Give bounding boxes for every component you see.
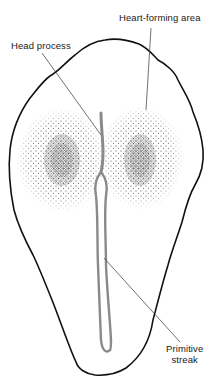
label-primitive-streak: Primitive streak: [166, 343, 203, 365]
right-heart-forming-area: [98, 106, 184, 210]
leader-primitive-streak: [104, 258, 180, 342]
head-process: [101, 113, 103, 172]
embryo-diagram: [0, 0, 214, 387]
label-primitive-streak-line2: streak: [166, 354, 203, 365]
leader-heart-forming-area: [146, 28, 151, 110]
left-heart-forming-area: [16, 108, 108, 212]
label-head-process: Head process: [11, 40, 71, 51]
label-primitive-streak-line1: Primitive: [166, 343, 203, 354]
label-heart-forming-area: Heart-forming area: [119, 12, 201, 23]
